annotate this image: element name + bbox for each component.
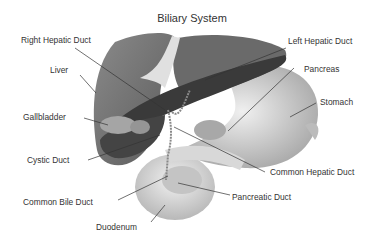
label-gallbladder: Gallbladder bbox=[23, 112, 66, 122]
label-cystic-duct: Cystic Duct bbox=[27, 155, 69, 165]
label-stomach: Stomach bbox=[320, 97, 353, 107]
label-left-hepatic-duct: Left Hepatic Duct bbox=[288, 36, 352, 46]
label-liver: Liver bbox=[50, 65, 68, 75]
label-right-hepatic-duct: Right Hepatic Duct bbox=[21, 35, 91, 45]
label-common-hepatic-duct: Common Hepatic Duct bbox=[270, 167, 354, 177]
label-common-bile-duct: Common Bile Duct bbox=[23, 197, 93, 207]
label-pancreatic-duct: Pancreatic Duct bbox=[232, 192, 291, 202]
label-pancreas: Pancreas bbox=[304, 64, 339, 74]
label-duodenum: Duodenum bbox=[96, 222, 137, 232]
